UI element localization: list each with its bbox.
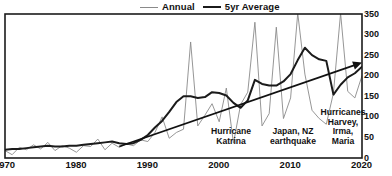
y-tick-100: 100 bbox=[364, 112, 379, 121]
x-tick-1970: 1970 bbox=[0, 160, 15, 170]
x-tick-2000: 2000 bbox=[208, 160, 229, 170]
x-tick-1980: 1980 bbox=[65, 160, 86, 170]
x-tick-2010: 2010 bbox=[280, 160, 301, 170]
y-tick-300: 300 bbox=[364, 30, 379, 39]
x-tick-2020: 2020 bbox=[351, 160, 372, 170]
y-tick-200: 200 bbox=[364, 71, 379, 80]
chart-svg bbox=[0, 0, 392, 176]
y-axis-tick-labels: 350300250200150100500 bbox=[364, 0, 392, 176]
x-tick-1990: 1990 bbox=[137, 160, 158, 170]
annotation-hurricane-katrina: Hurricane Katrina bbox=[200, 127, 262, 146]
y-tick-350: 350 bbox=[364, 10, 379, 19]
chart-root: Annual 5yr Average 350300250200150100500… bbox=[0, 0, 392, 176]
plot-area bbox=[0, 0, 392, 176]
annotation-hurricanes-harvey-irma-maria: Hurricanes Harvey, Irma, Maria bbox=[320, 108, 366, 146]
y-tick-150: 150 bbox=[364, 92, 379, 101]
y-tick-250: 250 bbox=[364, 51, 379, 60]
annotation-japan-nz-earthquake: Japan, NZ earthquake bbox=[262, 127, 324, 146]
x-axis-tick-labels: 197019801990200020102020 bbox=[0, 160, 392, 176]
